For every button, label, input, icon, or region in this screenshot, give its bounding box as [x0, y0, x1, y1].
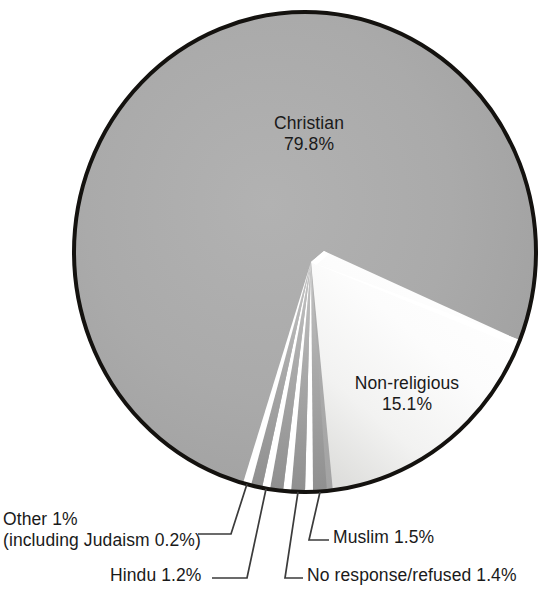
leader-lines	[198, 484, 329, 578]
slice-label-christian: Christian 79.8%	[214, 113, 404, 154]
leader-line-muslim	[309, 492, 329, 540]
slice-label-non-religious-value: 15.1%	[324, 394, 490, 415]
callout-label-hindu: Hindu 1.2%	[110, 565, 201, 586]
slice-label-non-religious-name: Non-religious	[324, 373, 490, 394]
callout-label-other-line2: (including Judaism 0.2%)	[3, 530, 201, 551]
pie-chart-figure: Christian 79.8% Non-religious 15.1% Othe…	[0, 0, 549, 615]
slice-label-christian-name: Christian	[214, 113, 404, 134]
pie-slices	[74, 12, 536, 492]
leader-line-other	[198, 484, 247, 534]
callout-label-no-response: No response/refused 1.4%	[307, 565, 517, 586]
leader-line-no-response	[285, 492, 303, 578]
slice-label-christian-value: 79.8%	[214, 134, 404, 155]
callout-label-other-line1: Other 1%	[3, 509, 78, 529]
slice-label-non-religious: Non-religious 15.1%	[324, 373, 490, 414]
callout-label-other: Other 1% (including Judaism 0.2%)	[3, 509, 201, 552]
callout-label-muslim: Muslim 1.5%	[333, 527, 434, 548]
